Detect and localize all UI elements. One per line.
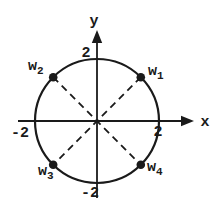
point-w1-label-sub: 1 (157, 70, 164, 82)
x-tick-negative-label: -2 (11, 125, 29, 142)
point-w1-label: w1 (148, 63, 164, 82)
x-axis-label: x (200, 114, 209, 131)
point-w1-label-base: w (148, 63, 157, 80)
point-w2-label-sub: 2 (37, 65, 44, 77)
point-w2-dot (49, 73, 58, 82)
point-w3-label-base: w (38, 163, 47, 180)
y-tick-positive-label: 2 (81, 45, 90, 62)
circle-diagram: y x 2 -2 2 -2 w1 w2 w3 w4 (0, 0, 222, 208)
point-w4-label: w4 (147, 159, 163, 178)
y-tick-negative-label: -2 (81, 185, 99, 202)
x-axis-arrowhead (181, 116, 194, 126)
point-w4-label-sub: 4 (156, 166, 163, 178)
diagram-canvas: y x 2 -2 2 -2 w1 w2 w3 w4 (0, 0, 222, 208)
point-w4-dot (137, 161, 146, 170)
point-w3-label-sub: 3 (47, 170, 54, 182)
point-w1-dot (137, 73, 146, 82)
point-w2-label: w2 (28, 58, 44, 77)
y-axis-arrowhead (92, 30, 102, 43)
point-w4-label-base: w (147, 159, 156, 176)
y-axis-label: y (89, 13, 98, 30)
point-w3-dot (49, 161, 58, 170)
x-tick-positive-label: 2 (153, 124, 162, 141)
point-w2-label-base: w (28, 58, 37, 75)
